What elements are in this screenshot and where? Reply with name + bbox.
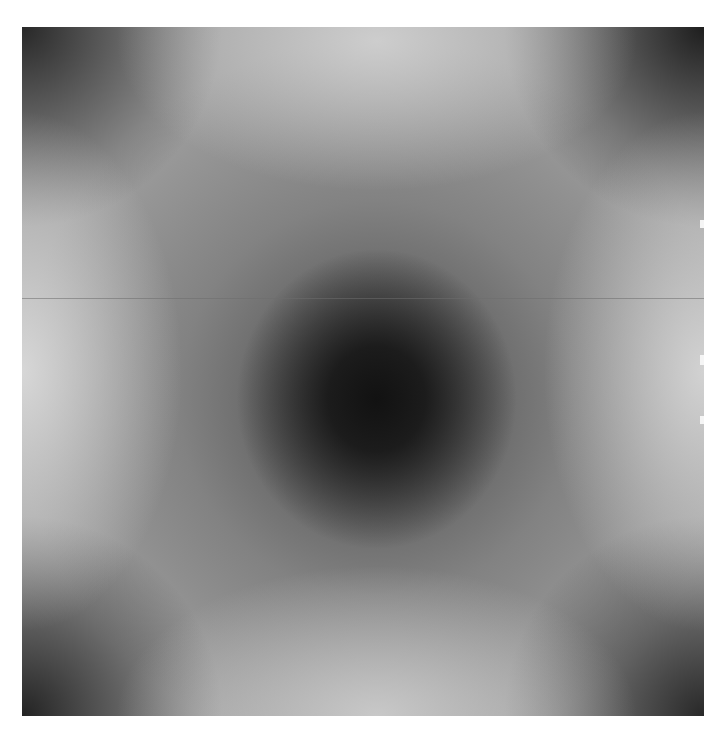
- edge-artifact: [700, 220, 704, 228]
- horizontal-line-artifact: [22, 298, 704, 299]
- grayscale-image: [22, 27, 704, 716]
- radial-pattern: [22, 27, 704, 716]
- edge-artifact: [700, 355, 704, 365]
- edge-artifact: [700, 416, 704, 424]
